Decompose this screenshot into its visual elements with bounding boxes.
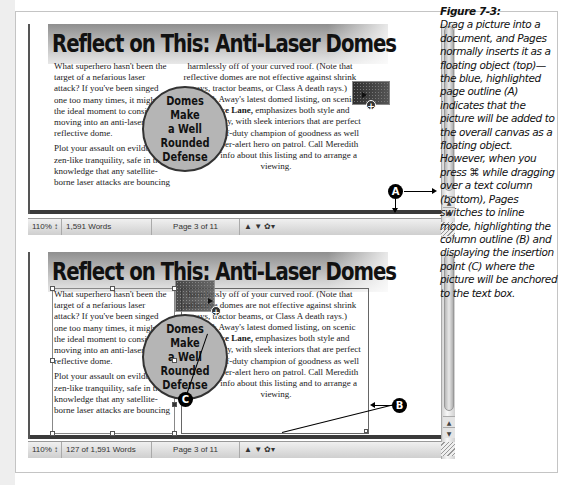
page-indicator: Page 3 of 11 bbox=[152, 219, 240, 235]
pages-window-floating: Reflect on This: Anti-Laser Domes What s… bbox=[28, 24, 455, 239]
document-canvas[interactable]: Reflect on This: Anti-Laser Domes What s… bbox=[28, 252, 441, 439]
selection-handle[interactable] bbox=[172, 431, 177, 436]
pointer-cursor-icon bbox=[208, 298, 213, 304]
page-nav-buttons[interactable]: ▲ ▼ ✿▾ bbox=[240, 442, 280, 458]
document-canvas[interactable]: Reflect on This: Anti-Laser Domes What s… bbox=[28, 24, 441, 214]
overflow-indicator[interactable] bbox=[364, 429, 368, 433]
status-bar: 110% ↕ 1,591 Words Page 3 of 11 ▲ ▼ ✿▾ bbox=[28, 218, 441, 235]
callout-a-arrowhead-down bbox=[392, 208, 398, 213]
pointer-cursor-icon bbox=[362, 92, 367, 98]
headline: Reflect on This: Anti-Laser Domes bbox=[52, 258, 396, 286]
figure-caption: Figure 7-3: Drag a picture into a docume… bbox=[440, 5, 558, 300]
page-nav-buttons[interactable]: ▲ ▼ ✿▾ bbox=[240, 219, 280, 235]
pull-quote-circle[interactable]: Domes Make a Well Rounded Defense bbox=[142, 86, 228, 172]
zoom-stepper-icon: ↕ bbox=[54, 445, 58, 454]
page-margin bbox=[0, 0, 15, 485]
callout-a-line-right bbox=[404, 191, 434, 192]
selection-handle[interactable] bbox=[172, 358, 177, 363]
selection-handle[interactable] bbox=[110, 431, 115, 436]
scroll-down-button[interactable]: ▼ bbox=[443, 427, 455, 438]
dragged-picture[interactable] bbox=[175, 280, 215, 312]
word-count: 1,591 Words bbox=[62, 219, 152, 235]
selection-handle[interactable] bbox=[50, 358, 55, 363]
copy-plus-cursor-icon: + bbox=[366, 100, 376, 110]
callout-a-arrowhead-right bbox=[432, 188, 437, 194]
scroll-up-button[interactable]: ▲ bbox=[443, 416, 455, 427]
zoom-menu[interactable]: 110% ↕ bbox=[28, 442, 62, 458]
figure-caption-text: Drag a picture into a document, and Page… bbox=[440, 18, 557, 298]
figure-title: Figure 7-3: bbox=[440, 5, 558, 18]
selection-handle[interactable] bbox=[172, 286, 177, 291]
callout-b-arrowhead-right bbox=[370, 402, 375, 408]
resize-grip[interactable] bbox=[441, 442, 455, 456]
copy-plus-cursor-icon: + bbox=[211, 306, 221, 316]
pages-window-inline: Reflect on This: Anti-Laser Domes What s… bbox=[28, 252, 455, 459]
text-flow-handle[interactable] bbox=[172, 402, 177, 407]
zoom-stepper-icon: ↕ bbox=[54, 222, 58, 231]
zoom-menu[interactable]: 110% ↕ bbox=[28, 219, 62, 235]
selection-handle[interactable] bbox=[50, 431, 55, 436]
status-bar: 110% ↕ 127 of 1,591 Words Page 3 of 11 ▲… bbox=[28, 441, 441, 458]
headline: Reflect on This: Anti-Laser Domes bbox=[52, 30, 396, 58]
callout-c: C bbox=[178, 392, 193, 407]
word-count: 127 of 1,591 Words bbox=[62, 442, 152, 458]
pull-quote-circle[interactable]: Domes Make a Well Rounded Defense bbox=[142, 314, 228, 400]
selection-handle[interactable] bbox=[50, 286, 55, 291]
pull-quote-text: Domes Make a Well Rounded Defense bbox=[151, 322, 218, 392]
pull-quote-text: Domes Make a Well Rounded Defense bbox=[151, 94, 218, 164]
callout-b: B bbox=[392, 398, 407, 413]
selection-handle[interactable] bbox=[110, 286, 115, 291]
callout-a: A bbox=[388, 184, 403, 199]
column2-paragraph-1: harmlessly off of your curved roof. (Not… bbox=[180, 61, 360, 95]
page-indicator: Page 3 of 11 bbox=[152, 442, 240, 458]
